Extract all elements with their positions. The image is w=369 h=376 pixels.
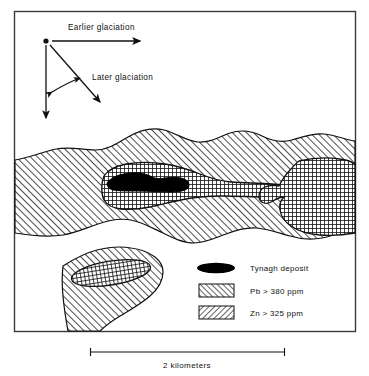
legend: Tynagh deposit Pb > 380 ppm Zn > 325 ppm (197, 263, 309, 319)
earlier-glaciation-label: Earlier glaciation (68, 23, 135, 32)
geological-map-figure: Earlier glaciation Later glaciation Tyna… (0, 0, 369, 376)
scale-bar: 2 kilometers (90, 348, 285, 370)
legend-label-zn: Zn > 325 ppm (250, 309, 303, 318)
scale-bar-label: 2 kilometers (163, 361, 211, 370)
map-canvas: Earlier glaciation Later glaciation Tyna… (0, 0, 369, 376)
legend-swatch-tynagh (197, 263, 235, 273)
legend-swatch-zn (199, 306, 234, 319)
legend-swatch-pb (199, 284, 234, 297)
legend-label-tynagh: Tynagh deposit (250, 264, 309, 273)
later-glaciation-label: Later glaciation (92, 73, 153, 82)
legend-label-pb: Pb > 380 ppm (250, 287, 304, 296)
glaciation-origin-dot (43, 38, 48, 43)
